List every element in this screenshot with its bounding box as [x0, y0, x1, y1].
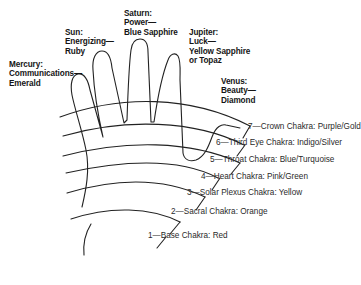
planet-quality: Luck—	[189, 37, 250, 46]
chakra-text: —Throat Chakra: Blue/Turquoise	[215, 155, 335, 164]
chakra-text: —Base Chakra: Red	[153, 231, 228, 240]
planet-name: Sun:	[65, 28, 114, 37]
finger-label-jupiter: Jupiter: Luck— Yellow Sapphire or Topaz	[189, 28, 250, 65]
chakra-text: —Sacral Chakra: Orange	[176, 207, 268, 216]
finger-label-venus: Venus: Beauty— Diamond	[221, 77, 256, 105]
planet-name: Mercury:	[9, 60, 82, 69]
planet-quality: Energizing—	[65, 37, 114, 46]
chakra-label-crown: 7—Crown Chakra: Purple/Gold	[248, 122, 361, 131]
chakra-text: —Heart Chakra: Pink/Green	[206, 172, 308, 181]
chakra-arc-2	[71, 210, 180, 222]
planet-stone: Diamond	[221, 96, 256, 105]
chakra-arc-4	[66, 163, 218, 178]
planet-quality: Communications—	[9, 69, 82, 78]
chakra-label-heart: 4—Heart Chakra: Pink/Green	[201, 172, 308, 181]
chakra-text: —Solar Plexus Chakra: Yellow	[192, 188, 303, 197]
chakra-arc-3	[67, 182, 205, 197]
planet-quality: Beauty—	[221, 86, 256, 95]
planet-quality: Power—	[124, 18, 178, 27]
planet-name: Jupiter:	[189, 28, 250, 37]
finger-label-saturn: Saturn: Power— Blue Sapphire	[124, 9, 178, 37]
finger-label-mercury: Mercury: Communications— Emerald	[9, 60, 82, 88]
chakra-label-base: 1—Base Chakra: Red	[148, 231, 228, 240]
chakra-label-throat: 5—Throat Chakra: Blue/Turquoise	[210, 155, 334, 164]
wrist-line	[84, 224, 91, 255]
chakra-label-sacral: 2—Sacral Chakra: Orange	[171, 207, 267, 216]
chakra-label-third-eye: 6—Third Eye Chakra: Indigo/Silver	[216, 138, 342, 147]
planet-stone: Emerald	[9, 79, 82, 88]
chakra-label-solar-plexus: 3—Solar Plexus Chakra: Yellow	[187, 188, 302, 197]
finger-label-sun: Sun: Energizing— Ruby	[65, 28, 114, 56]
planet-stone: Yellow Sapphire	[189, 47, 250, 56]
chakra-text: —Third Eye Chakra: Indigo/Silver	[221, 138, 343, 147]
planet-name: Venus:	[221, 77, 256, 86]
planet-name: Saturn:	[124, 9, 178, 18]
planet-stone: Blue Sapphire	[124, 28, 178, 37]
planet-stone: Ruby	[65, 47, 114, 56]
chakra-text: —Crown Chakra: Purple/Gold	[253, 122, 361, 131]
planet-stone-alt: or Topaz	[189, 56, 250, 65]
